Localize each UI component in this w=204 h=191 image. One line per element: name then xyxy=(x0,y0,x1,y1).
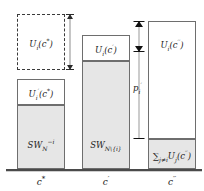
arrowhead-up-icon xyxy=(67,14,73,19)
arrow-price-inner-head xyxy=(131,40,147,52)
arrow-cap-bottom xyxy=(134,138,145,139)
arrowhead-down-icon xyxy=(67,65,73,70)
bar-label-u-i-c-prime: Ui(c′) xyxy=(83,44,129,57)
axis-label-c-star: c* xyxy=(17,176,65,187)
arrow-shaft xyxy=(139,21,140,139)
bar-label-sw-n-minus-i: SWN−i xyxy=(18,139,64,152)
bar-label-u-i-c-double-prime: Ui(c′′) xyxy=(149,39,195,52)
arrow-shaft xyxy=(70,14,71,70)
caption-fragment xyxy=(112,0,204,9)
bar-segment-sum-j-not-i-u-j: ∑j≠iUj(c′′) xyxy=(148,139,196,169)
bar-segment-sw-n-minus-i: SWN−i xyxy=(17,105,65,169)
bar-segment-u-i-c-double-prime: Ui(c′′) xyxy=(148,21,196,139)
bar-label-sum-j-not-i-u-j: ∑j≠iUj(c′′) xyxy=(149,150,195,163)
bar-segment-sw-n-without-i: SWN\{i} xyxy=(82,61,130,169)
arrow-label-p-i-prime: pi′ xyxy=(133,82,142,95)
welfare-bar-diagram: Ui(c*) Ui′(c*) SWN−i Ui(c′) SWN\{i} Ui(c… xyxy=(0,0,204,191)
arrow-gap-c-star xyxy=(63,14,77,70)
arrowhead-up-icon xyxy=(135,21,143,27)
axis-baseline-shadow xyxy=(6,171,202,172)
axis-label-c-double-prime: c′′ xyxy=(148,176,196,187)
bar-label-sw-n-without-i: SWN\{i} xyxy=(83,141,129,152)
bar-segment-u-i-c-star-dashed: Ui(c*) xyxy=(17,14,65,70)
axis-label-c-prime: c′ xyxy=(82,176,130,187)
bar-segment-u-i-c-prime: Ui(c′) xyxy=(82,35,130,61)
bar-segment-u-i-prime-c-star: Ui′(c*) xyxy=(17,79,65,105)
arrowhead-down-icon xyxy=(135,46,143,52)
arrow-price-p-i-prime xyxy=(131,21,147,139)
bar-label-u-i-prime-c-star: Ui′(c*) xyxy=(18,88,64,101)
bar-label-u-i-c-star: Ui(c*) xyxy=(18,38,64,51)
